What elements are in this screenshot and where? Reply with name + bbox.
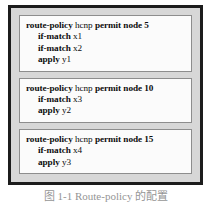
policy-header-line: route-policy hcnp permit node 15 [26, 134, 185, 145]
statement-keyword: if-match [38, 145, 71, 155]
policy-block-list: route-policy hcnp permit node 5 if-match… [19, 15, 192, 175]
policy-name: hcnp [75, 20, 93, 30]
policy-action: permit node 10 [95, 83, 154, 93]
statement-value: y3 [62, 157, 71, 167]
policy-statement-line: if-match x1 [26, 31, 185, 42]
policy-name: hcnp [75, 134, 93, 144]
policy-block: route-policy hcnp permit node 5 if-match… [19, 15, 192, 72]
policy-block: route-policy hcnp permit node 15 if-matc… [19, 129, 192, 174]
statement-value: x4 [73, 145, 82, 155]
statement-value: x1 [73, 31, 82, 41]
policy-statement-line: if-match x2 [26, 43, 185, 54]
policy-action: permit node 5 [95, 20, 149, 30]
policy-statement-line: if-match x3 [26, 94, 185, 105]
statement-value: x2 [73, 43, 82, 53]
statement-keyword: apply [38, 54, 60, 64]
policy-statement-line: apply y1 [26, 54, 185, 65]
statement-keyword: if-match [38, 94, 71, 104]
policy-block: route-policy hcnp permit node 10 if-matc… [19, 78, 192, 123]
policy-statement-line: apply y2 [26, 105, 185, 116]
policy-action: permit node 15 [95, 134, 154, 144]
policy-header-line: route-policy hcnp permit node 5 [26, 20, 185, 31]
statement-value: y2 [62, 105, 71, 115]
policy-command: route-policy [26, 134, 73, 144]
statement-keyword: if-match [38, 43, 71, 53]
statement-keyword: apply [38, 157, 60, 167]
statement-keyword: if-match [38, 31, 71, 41]
statement-value: y1 [62, 54, 71, 64]
policy-statement-line: if-match x4 [26, 145, 185, 156]
policy-header-line: route-policy hcnp permit node 10 [26, 83, 185, 94]
policy-name: hcnp [75, 83, 93, 93]
statement-value: x3 [73, 94, 82, 104]
policy-command: route-policy [26, 20, 73, 30]
statement-keyword: apply [38, 105, 60, 115]
figure-caption: 图 1-1 Route-policy 的配置 [0, 190, 212, 203]
policy-command: route-policy [26, 83, 73, 93]
figure-frame: route-policy hcnp permit node 5 if-match… [8, 5, 203, 185]
policy-statement-line: apply y3 [26, 157, 185, 168]
